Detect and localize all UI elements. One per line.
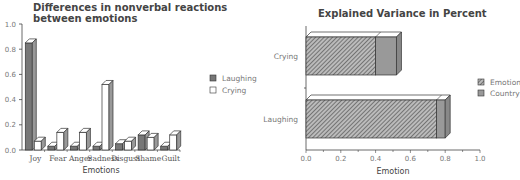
bar-row-crying (306, 32, 401, 75)
legend-label: Emotion (490, 78, 520, 87)
legend-label: Country (490, 89, 520, 98)
y-tick-label: 0.0 (5, 147, 16, 155)
bar-country (376, 37, 397, 75)
x-tick-label: 0.2 (335, 155, 346, 163)
legend-swatch-emotion (478, 79, 484, 85)
bar-crying (79, 128, 90, 150)
left-bar-chart: 0.00.20.40.60.81.0JoyFearAngerSadnessDis… (5, 21, 257, 176)
legend-swatch-laughing (210, 75, 216, 81)
right-legend: EmotionCountry (478, 78, 520, 98)
category-label: Guilt (161, 154, 180, 163)
bar-emotion (306, 100, 437, 138)
legend-label: Laughing (222, 74, 257, 83)
y-tick-label: 1.0 (5, 21, 16, 29)
x-tick-label: 0.8 (440, 155, 451, 163)
category-label: Fear (49, 154, 67, 163)
bar-crying (102, 80, 113, 150)
y-tick-label: 0.4 (5, 96, 17, 104)
y-tick-label: 0.6 (5, 71, 17, 79)
category-label: Shame (135, 154, 162, 163)
bar-laughing (25, 39, 36, 150)
x-axis-label: Emotions (82, 166, 119, 175)
y-tick-label: 0.8 (5, 46, 16, 54)
bar-row-laughing (306, 95, 450, 138)
charts-canvas: 0.00.20.40.60.81.0JoyFearAngerSadnessDis… (0, 0, 520, 180)
bar-crying (125, 137, 136, 150)
bar-crying (57, 128, 68, 150)
x-tick-label: 1.0 (474, 155, 485, 163)
legend-label: Crying (222, 86, 247, 95)
category-label: Crying (274, 52, 299, 61)
y-tick-label: 0.2 (5, 121, 16, 129)
category-label: Joy (28, 154, 42, 163)
category-label: Laughing (263, 115, 298, 124)
bar-crying (34, 137, 45, 150)
x-axis-label: Emotion (376, 167, 409, 176)
x-tick-label: 0.4 (370, 155, 382, 163)
right-bar-chart: 0.00.20.40.60.81.0CryingLaughingEmotionE… (263, 26, 520, 176)
legend-swatch-crying (210, 87, 216, 93)
bar-crying (170, 131, 181, 150)
x-tick-label: 0.6 (405, 155, 417, 163)
x-tick-label: 0.0 (300, 155, 311, 163)
bar-crying (147, 133, 158, 150)
bar-emotion (306, 37, 376, 75)
left-legend: LaughingCrying (210, 74, 257, 95)
legend-swatch-country (478, 90, 484, 96)
bar-country (437, 100, 446, 138)
